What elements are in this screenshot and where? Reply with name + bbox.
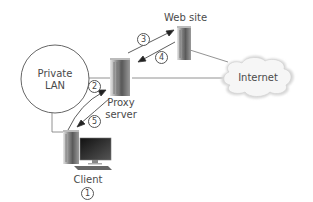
website-label: Web site bbox=[164, 12, 206, 24]
proxy-server-label: Proxy server bbox=[100, 97, 142, 121]
proxy-server-label-line1: Proxy bbox=[100, 97, 142, 109]
diagram-canvas bbox=[0, 0, 313, 202]
step-5-badge: 5 bbox=[88, 115, 101, 128]
step-3-badge: 3 bbox=[137, 33, 150, 46]
proxy-server-label-line2: server bbox=[100, 109, 142, 121]
website-server-icon bbox=[177, 26, 191, 60]
private-lan-label: Private LAN bbox=[33, 68, 77, 92]
step-4-badge: 4 bbox=[155, 51, 168, 64]
step-2-badge: 2 bbox=[88, 80, 101, 93]
client-label: Client bbox=[70, 174, 106, 186]
internet-label: Internet bbox=[238, 72, 278, 84]
proxy-server-icon bbox=[110, 58, 130, 96]
private-lan-label-line1: Private bbox=[33, 68, 77, 80]
private-lan-label-line2: LAN bbox=[33, 80, 77, 92]
client-computer-icon bbox=[63, 130, 112, 170]
step-1-badge: 1 bbox=[81, 187, 94, 200]
